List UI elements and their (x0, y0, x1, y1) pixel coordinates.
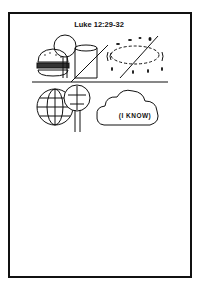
strike-line (120, 36, 158, 78)
glass-icon (71, 45, 108, 82)
illustration (0, 0, 198, 281)
thought-cloud-icon (97, 90, 158, 125)
rain-drops-icon (107, 36, 163, 78)
hamburger-icon (37, 49, 69, 76)
cloud-label: (I KNOW) (105, 112, 165, 119)
tree-icon (64, 85, 90, 132)
